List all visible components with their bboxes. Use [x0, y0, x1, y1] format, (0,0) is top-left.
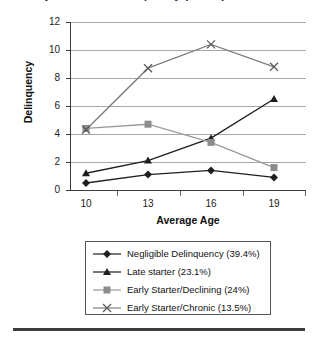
legend-swatch-diamond-icon: [92, 247, 122, 261]
x-tick-label-13: 13: [128, 198, 168, 209]
x-tick-mark-4: [305, 191, 306, 196]
x-tick-mark-3: [243, 191, 244, 196]
gridline-6: [70, 106, 306, 107]
y-tick-label-12: 12: [20, 16, 60, 27]
chart-legend: Negligible Delinquency (39.4%) Late star…: [85, 241, 271, 315]
legend-label-2: Early Starter/Declining (24%): [127, 284, 250, 295]
legend-item-late-starter[interactable]: Late starter (23.1%): [92, 263, 211, 280]
x-axis-title: Average Age: [70, 214, 306, 226]
legend-item-negligible-delinquency[interactable]: Negligible Delinquency (39.4%): [92, 245, 260, 262]
bottom-divider: [13, 328, 305, 331]
gridline-8: [70, 78, 306, 79]
legend-label-1: Late starter (23.1%): [127, 266, 211, 277]
y-tick-mark-2: [66, 162, 71, 163]
legend-item-early-starter-chronic[interactable]: Early Starter/Chronic (13.5%): [92, 299, 251, 316]
gridline-4: [70, 134, 306, 135]
x-tick-label-16: 16: [191, 198, 231, 209]
x-tick-label-10: 10: [66, 198, 106, 209]
legend-swatch-square-icon: [92, 283, 122, 297]
y-tick-mark-6: [66, 106, 71, 107]
x-tick-mark-2: [180, 191, 181, 196]
gridline-12: [70, 22, 306, 23]
y-tick-label-0: 0: [20, 184, 60, 195]
y-tick-mark-10: [66, 50, 71, 51]
y-axis-title: Delinquency: [22, 37, 34, 147]
y-tick-mark-4: [66, 134, 71, 135]
gridline-10: [70, 50, 306, 51]
x-axis-line: [70, 190, 306, 191]
x-tick-label-19: 19: [254, 198, 294, 209]
plot-area: [70, 22, 306, 190]
legend-swatch-cross-x-icon: [92, 301, 122, 315]
y-tick-mark-8: [66, 78, 71, 79]
y-tick-mark-12: [66, 22, 71, 23]
y-tick-label-2: 2: [20, 156, 60, 167]
legend-item-early-starter-declining[interactable]: Early Starter/Declining (24%): [92, 281, 250, 298]
gridline-2: [70, 162, 306, 163]
legend-label-3: Early Starter/Chronic (13.5%): [127, 302, 251, 313]
legend-swatch-triangle-icon: [92, 265, 122, 279]
legend-label-0: Negligible Delinquency (39.4%): [127, 248, 260, 259]
x-tick-mark-1: [117, 191, 118, 196]
chart-title: Trajectories of Delinquency (n=506): [28, 0, 228, 3]
y-tick-mark-0: [66, 190, 71, 191]
